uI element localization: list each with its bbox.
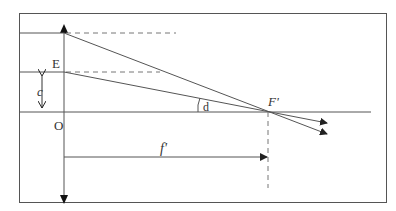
label-E: E — [52, 56, 60, 71]
refracted-ray-top — [64, 33, 327, 134]
label-O: O — [54, 118, 63, 133]
refracted-ray-mid — [64, 72, 327, 123]
label-f-prime: f' — [160, 141, 168, 156]
lens-diagram: E c O d F' f' — [0, 0, 396, 211]
label-F-prime: F' — [267, 94, 279, 109]
angle-arc — [198, 98, 200, 112]
label-c: c — [37, 84, 43, 99]
label-d: d — [203, 100, 209, 114]
lens-top-arrow-icon — [60, 24, 68, 33]
